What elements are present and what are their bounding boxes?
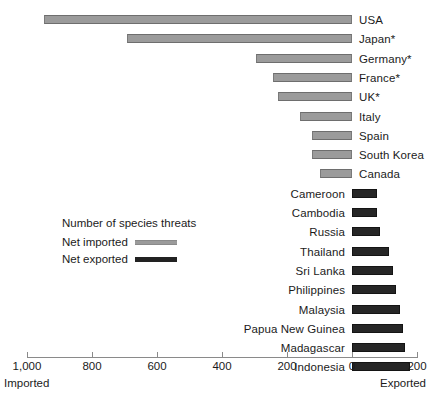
axis-tick-label: 1,000	[13, 359, 42, 373]
legend-title: Number of species threats	[62, 215, 196, 231]
category-label: Papua New Guinea	[244, 320, 345, 338]
chart-row: USA	[0, 11, 430, 30]
legend-item-net-exported: Net exported	[62, 251, 196, 268]
category-label: Germany*	[359, 50, 412, 68]
category-label: Sri Lanka	[296, 262, 345, 280]
bar-exported	[352, 208, 377, 217]
axis-tick	[417, 352, 418, 358]
chart-row: Malaysia	[0, 301, 430, 320]
axis-tick	[92, 352, 93, 358]
bar-imported	[256, 54, 352, 63]
chart-row: France*	[0, 69, 430, 88]
category-label: Philippines	[288, 281, 345, 299]
category-label: UK*	[359, 88, 380, 106]
chart-legend: Number of species threats Net imported N…	[62, 215, 196, 268]
category-label: Cameroon	[291, 185, 346, 203]
legend-item-label: Net imported	[62, 234, 128, 251]
bar-exported	[352, 343, 405, 352]
legend-swatch-imported	[135, 240, 177, 245]
bar-imported	[278, 92, 352, 101]
bar-imported	[312, 131, 352, 140]
axis-tick-label: 200	[407, 359, 426, 373]
legend-item-net-imported: Net imported	[62, 234, 196, 251]
bar-imported	[312, 150, 352, 159]
bar-imported	[300, 112, 352, 121]
category-label: Canada	[359, 165, 400, 183]
chart-row: Papua New Guinea	[0, 320, 430, 339]
axis-tick	[352, 352, 353, 358]
chart-row: Japan*	[0, 30, 430, 49]
axis-tick	[157, 352, 158, 358]
axis-end-label-imported: Imported	[4, 376, 49, 390]
bar-exported	[352, 189, 377, 198]
chart-row: Germany*	[0, 50, 430, 69]
category-label: Malaysia	[299, 301, 345, 319]
x-axis: 1,0008006004002000200 Imported Exported	[0, 352, 430, 403]
chart-row: Canada	[0, 165, 430, 184]
bar-imported	[273, 73, 352, 82]
category-label: Thailand	[300, 243, 345, 261]
axis-tick	[222, 352, 223, 358]
legend-item-label: Net exported	[62, 251, 128, 268]
category-label: Italy	[359, 108, 381, 126]
bar-exported	[352, 247, 389, 256]
chart-row: Italy	[0, 108, 430, 127]
legend-swatch-exported	[135, 257, 177, 262]
category-label: France*	[359, 69, 400, 87]
category-label: Japan*	[359, 30, 395, 48]
bar-exported	[352, 305, 400, 314]
bar-imported	[320, 169, 352, 178]
chart-row: Philippines	[0, 281, 430, 300]
axis-end-label-exported: Exported	[380, 376, 426, 390]
bar-exported	[352, 266, 393, 275]
chart-row: UK*	[0, 88, 430, 107]
axis-tick-label: 400	[212, 359, 231, 373]
category-label: USA	[359, 11, 383, 29]
category-label: South Korea	[359, 146, 424, 164]
axis-tick-label: 600	[147, 359, 166, 373]
category-label: Cambodia	[292, 204, 345, 222]
bar-imported	[44, 15, 352, 24]
axis-tick	[27, 352, 28, 358]
species-threats-diverging-bar-chart: USAJapan*Germany*France*UK*ItalySpainSou…	[0, 0, 430, 403]
chart-row: Spain	[0, 127, 430, 146]
axis-tick	[287, 352, 288, 358]
category-label: Russia	[309, 223, 345, 241]
bar-imported	[127, 34, 352, 43]
category-label: Spain	[359, 127, 389, 145]
bar-exported	[352, 227, 380, 236]
chart-row: Cameroon	[0, 185, 430, 204]
axis-tick-label: 800	[82, 359, 101, 373]
bar-exported	[352, 285, 396, 294]
bar-exported	[352, 324, 403, 333]
chart-row: South Korea	[0, 146, 430, 165]
axis-tick-label: 200	[277, 359, 296, 373]
axis-tick-label: 0	[349, 359, 355, 373]
